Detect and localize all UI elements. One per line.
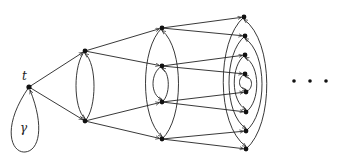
arc-l3 xyxy=(234,55,246,110)
loop-label: γ xyxy=(20,121,28,135)
node-layer3 xyxy=(243,72,248,77)
arc-l3 xyxy=(229,36,246,129)
edge-l2-l3 xyxy=(162,17,242,28)
edge-l2-l3 xyxy=(162,28,243,36)
nodes-group xyxy=(26,15,327,152)
node-layer3 xyxy=(242,15,247,20)
node-layer3 xyxy=(244,90,249,95)
arc-l2 xyxy=(153,66,162,100)
graph-diagram: t γ xyxy=(0,0,339,162)
graph-svg: t γ xyxy=(0,0,339,162)
node-layer3 xyxy=(243,34,248,39)
node-layer2 xyxy=(160,64,165,69)
node-layer2 xyxy=(160,137,165,142)
edge-root-l1-0 xyxy=(29,52,83,87)
arc-l3 xyxy=(245,39,262,132)
edge-l2-l3 xyxy=(162,92,244,102)
node-layer1 xyxy=(83,119,88,124)
arc-l3 xyxy=(245,58,257,113)
edge-l1-l2 xyxy=(85,51,160,66)
node-layer2 xyxy=(160,26,165,31)
node-layer3 xyxy=(244,147,249,152)
node-layer3 xyxy=(244,110,249,115)
arc-l1 xyxy=(85,54,94,122)
node-layer1 xyxy=(83,49,88,54)
root-label: t xyxy=(22,69,27,83)
gamma-loop-edge xyxy=(11,87,39,152)
node-root-t xyxy=(26,84,31,89)
arc-l1 xyxy=(76,51,85,119)
edge-l1-l2 xyxy=(85,29,160,51)
edge-l1-l2 xyxy=(85,121,160,138)
ellipsis-dot xyxy=(292,79,296,83)
arc-l2 xyxy=(162,31,179,140)
edge-l2-l3 xyxy=(162,139,244,149)
edge-l2-l3 xyxy=(162,131,244,139)
node-layer3 xyxy=(243,53,248,58)
ellipsis-dot xyxy=(308,79,312,83)
arc-l2 xyxy=(146,28,163,137)
edges-group xyxy=(11,17,267,152)
node-layer2 xyxy=(160,100,165,105)
node-layer3 xyxy=(244,129,249,134)
ellipsis-dot xyxy=(324,79,328,83)
arc-l2 xyxy=(162,69,168,103)
